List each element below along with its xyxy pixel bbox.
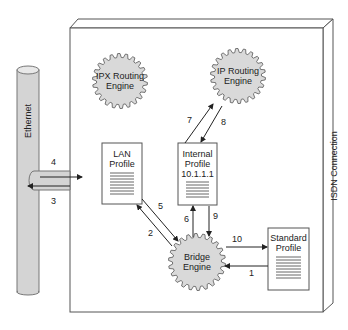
bridge-engine: Bridge Engine: [167, 252, 227, 272]
bridge-engine-line2: Engine: [167, 262, 227, 272]
standard-profile: Standard Profile: [268, 233, 309, 253]
internal-profile: Internal Profile 10.1.1.1: [178, 149, 217, 179]
bridge-engine-line1: Bridge: [167, 252, 227, 262]
step-2-label: 2: [148, 228, 153, 238]
step-8-label: 8: [221, 117, 226, 127]
step-1-label: 1: [249, 268, 254, 278]
step-10-label: 10: [232, 234, 242, 244]
step-3-label: 3: [51, 196, 56, 206]
standard-profile-line1: Standard: [268, 233, 309, 243]
ip-engine-line1: IP Routing: [208, 66, 268, 76]
internal-profile-address: 10.1.1.1: [178, 169, 217, 179]
step-6-label: 6: [184, 214, 189, 224]
lan-profile-line1: LAN: [102, 149, 142, 159]
ipx-engine-line2: Engine: [90, 81, 150, 91]
internal-profile-line2: Profile: [178, 159, 217, 169]
internal-profile-line1: Internal: [178, 149, 217, 159]
step-5-label: 5: [158, 201, 163, 211]
step-9-label: 9: [213, 211, 218, 221]
ipx-engine-line1: IPX Routing: [90, 71, 150, 81]
lan-profile-line2: Profile: [102, 159, 142, 169]
ethernet-label: Ethernet: [23, 91, 33, 151]
isdn-connection-label: ISDN Connection: [329, 106, 339, 226]
ip-routing-engine: IP Routing Engine: [208, 66, 268, 86]
ip-engine-line2: Engine: [208, 76, 268, 86]
step-4-label: 4: [51, 157, 56, 167]
ipx-routing-engine: IPX Routing Engine: [90, 71, 150, 91]
standard-profile-line2: Profile: [268, 243, 309, 253]
step-7-label: 7: [187, 115, 192, 125]
lan-profile: LAN Profile: [102, 149, 142, 169]
